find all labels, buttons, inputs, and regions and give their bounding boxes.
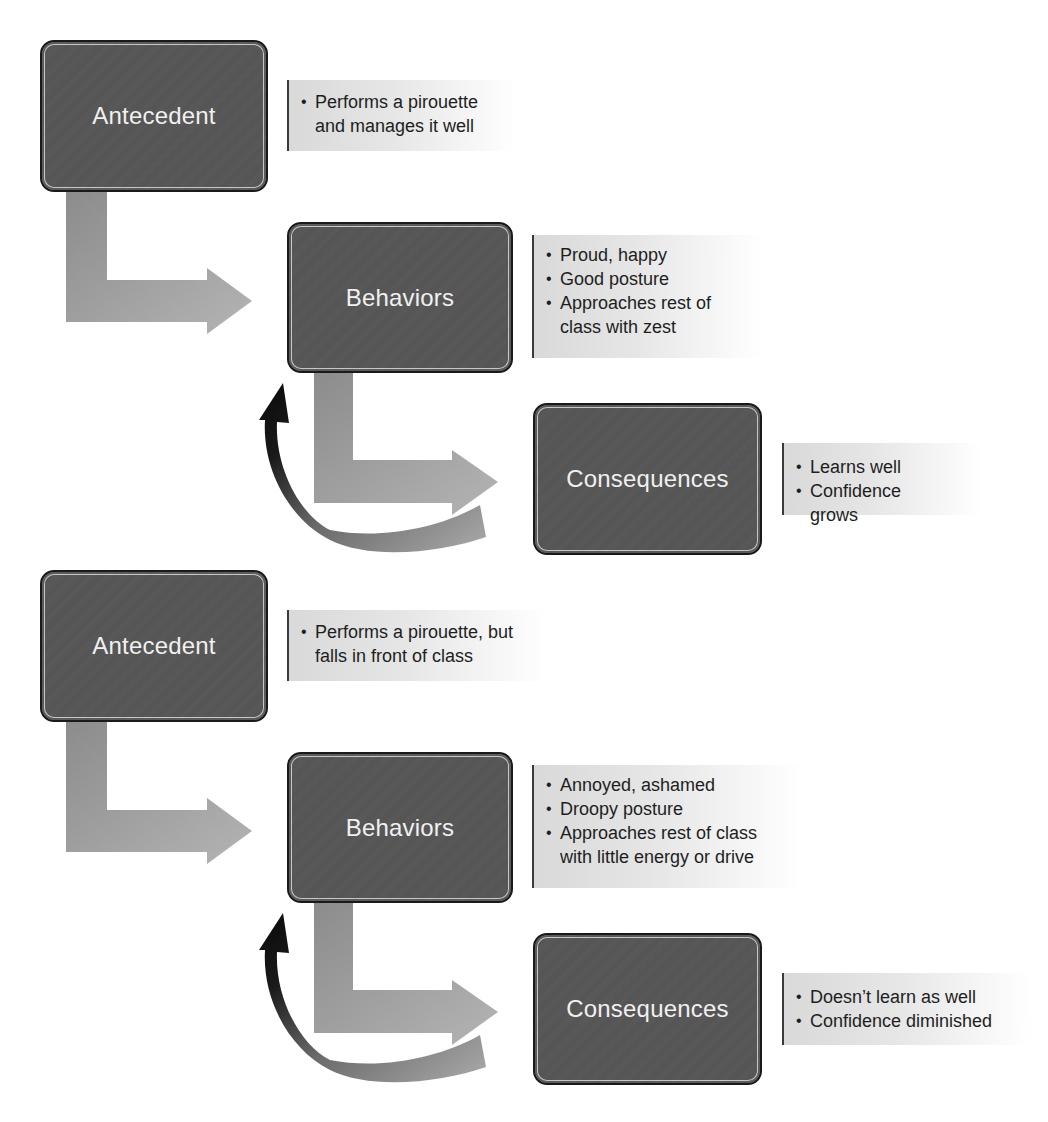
note-item: Approaches rest of class with zest: [546, 291, 732, 339]
abc-diagram-negative: Antecedent Performs a pirouette, but fal…: [0, 530, 1048, 1060]
consequences-box: Consequences: [533, 933, 762, 1085]
antecedent-box: Antecedent: [40, 570, 268, 722]
flow-arrow-antecedent-to-behaviors: [66, 192, 252, 334]
flow-arrow-behaviors-to-consequences: [314, 903, 498, 1045]
note-item: Proud, happy: [546, 243, 732, 267]
behaviors-box: Behaviors: [287, 752, 513, 903]
flow-arrow-behaviors-to-consequences: [314, 373, 498, 515]
note-item: Performs a pirouette and manages it well: [301, 90, 487, 138]
behaviors-box: Behaviors: [287, 222, 513, 373]
consequences-notes: Learns well Confidence grows: [782, 443, 982, 515]
antecedent-label: Antecedent: [92, 102, 215, 130]
note-item: Annoyed, ashamed: [546, 773, 772, 797]
antecedent-label: Antecedent: [92, 632, 215, 660]
note-item: Doesn’t learn as well: [796, 985, 1002, 1009]
antecedent-notes: Performs a pirouette and manages it well: [287, 80, 517, 151]
flow-arrow-antecedent-to-behaviors: [66, 722, 252, 864]
antecedent-box: Antecedent: [40, 40, 268, 192]
consequences-label: Consequences: [566, 465, 729, 493]
note-item: Approaches rest of class with little ene…: [546, 821, 772, 869]
behaviors-notes: Annoyed, ashamed Droopy posture Approach…: [532, 765, 802, 888]
note-item: Good posture: [546, 267, 732, 291]
consequences-notes: Doesn’t learn as well Confidence diminis…: [782, 973, 1032, 1045]
note-item: Confidence grows: [796, 479, 952, 527]
consequences-label: Consequences: [566, 995, 729, 1023]
note-item: Droopy posture: [546, 797, 772, 821]
note-item: Learns well: [796, 455, 952, 479]
behaviors-notes: Proud, happy Good posture Approaches res…: [532, 235, 762, 358]
abc-diagram-positive: Antecedent Performs a pirouette and mana…: [0, 0, 1048, 530]
note-item: Performs a pirouette, but falls in front…: [301, 620, 517, 668]
antecedent-notes: Performs a pirouette, but falls in front…: [287, 610, 547, 681]
note-item: Confidence diminished: [796, 1009, 1002, 1033]
behaviors-label: Behaviors: [346, 284, 455, 312]
behaviors-label: Behaviors: [346, 814, 455, 842]
